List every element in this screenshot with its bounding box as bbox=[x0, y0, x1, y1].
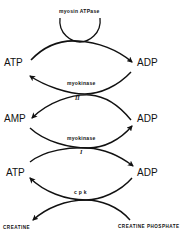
node-creatine: CREATINE bbox=[3, 225, 30, 230]
node-adp-top: ADP bbox=[137, 57, 158, 68]
enzyme-myokinase-upper: myokinase bbox=[67, 80, 96, 86]
node-adp-mid: ADP bbox=[137, 113, 158, 124]
adp-to-amp-arrow bbox=[32, 95, 131, 120]
node-adp-bottom: ADP bbox=[137, 167, 158, 178]
atp-to-adp-arrow bbox=[31, 41, 132, 62]
node-atp-bottom: ATP bbox=[6, 167, 25, 178]
node-creatine-phosphate: CREATINE PHOSPHATE bbox=[118, 224, 180, 229]
reaction-number-i: I bbox=[80, 149, 82, 155]
enzyme-myosin-atpase: myosin ATPase bbox=[59, 8, 100, 14]
phosphocreatine-to-creatine-arrow bbox=[33, 200, 130, 220]
reaction-number-ii: II bbox=[75, 95, 80, 101]
myosin-cup-curve bbox=[60, 18, 100, 42]
reaction-diagram: myosin ATPase ATP ADP myokinase II AMP A… bbox=[0, 0, 184, 232]
node-atp-top: ATP bbox=[4, 57, 23, 68]
node-amp: AMP bbox=[4, 113, 26, 124]
enzyme-myokinase-lower: myokinase bbox=[67, 135, 96, 141]
enzyme-cpk: c p k bbox=[74, 189, 87, 195]
